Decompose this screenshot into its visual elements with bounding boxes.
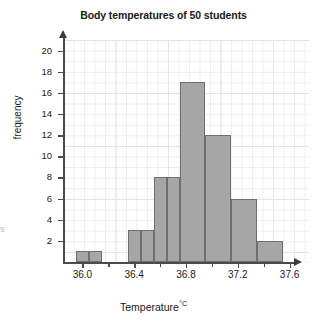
y-axis-arrow-icon <box>59 30 67 38</box>
x-tick-mark-minor <box>212 263 213 267</box>
y-tick-label: 10 <box>26 150 52 161</box>
histogram-bar <box>231 199 257 262</box>
x-tick-mark <box>238 263 239 268</box>
y-tick-mark <box>58 199 63 200</box>
histogram-bar <box>257 241 283 262</box>
x-tick-label: 36.4 <box>114 269 154 280</box>
x-axis-title-text: Temperature <box>120 301 179 313</box>
x-tick-mark-minor <box>108 263 109 267</box>
x-axis-line <box>63 262 296 264</box>
x-axis-title: Temperature°C <box>120 299 320 313</box>
y-tick-mark <box>58 241 63 242</box>
chart-title: Body temperatures of 50 students <box>0 9 327 21</box>
y-tick-label: 6 <box>26 193 52 204</box>
y-tick-mark <box>58 51 63 52</box>
y-tick-mark <box>58 177 63 178</box>
y-tick-mark <box>58 114 63 115</box>
y-tick-label: 16 <box>26 87 52 98</box>
histogram-bar <box>167 177 180 262</box>
y-tick-label: 4 <box>26 214 52 225</box>
y-axis-title: frequency <box>12 68 23 168</box>
x-axis-unit: °C <box>179 299 187 308</box>
histogram-bar <box>141 230 154 262</box>
histogram-bar <box>76 251 89 262</box>
y-tick-label: 18 <box>26 66 52 77</box>
y-tick-label: 8 <box>26 171 52 182</box>
x-tick-mark <box>82 263 83 268</box>
x-tick-mark <box>134 263 135 268</box>
y-axis-line <box>63 36 65 263</box>
x-tick-mark <box>290 263 291 268</box>
histogram-bar <box>154 177 167 262</box>
y-tick-mark <box>58 93 63 94</box>
y-tick-label: 20 <box>26 45 52 56</box>
x-tick-mark <box>186 263 187 268</box>
y-tick-mark <box>58 156 63 157</box>
x-tick-label: 37.2 <box>218 269 258 280</box>
y-tick-mark <box>58 135 63 136</box>
x-axis-arrow-icon <box>294 258 302 266</box>
x-tick-mark-minor <box>160 263 161 267</box>
y-tick-label: 14 <box>26 108 52 119</box>
y-tick-mark <box>58 72 63 73</box>
histogram-bar <box>128 230 141 262</box>
x-tick-mark-minor <box>264 263 265 267</box>
histogram-bar <box>205 135 231 262</box>
x-tick-label: 36.8 <box>166 269 206 280</box>
x-tick-label: 36.0 <box>62 269 102 280</box>
histogram-chart: Body temperatures of 50 students s frequ… <box>0 0 327 324</box>
plot-area <box>63 40 309 263</box>
histogram-bar <box>89 251 102 262</box>
y-tick-label: 12 <box>26 129 52 140</box>
histogram-bar <box>180 82 206 262</box>
x-tick-label: 37.6 <box>270 269 310 280</box>
y-tick-mark <box>58 220 63 221</box>
y-tick-label: 2 <box>26 235 52 246</box>
page-edge-artifact: s <box>0 224 10 234</box>
